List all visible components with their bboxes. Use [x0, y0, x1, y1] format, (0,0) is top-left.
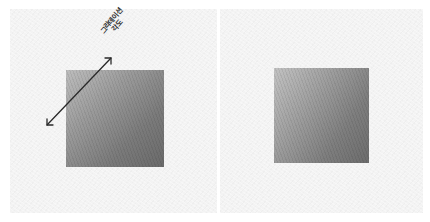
- gradient-swatch-right: [274, 68, 369, 163]
- gradient-swatch-left: [66, 70, 164, 167]
- left-panel: [10, 9, 217, 213]
- right-panel: [220, 9, 423, 213]
